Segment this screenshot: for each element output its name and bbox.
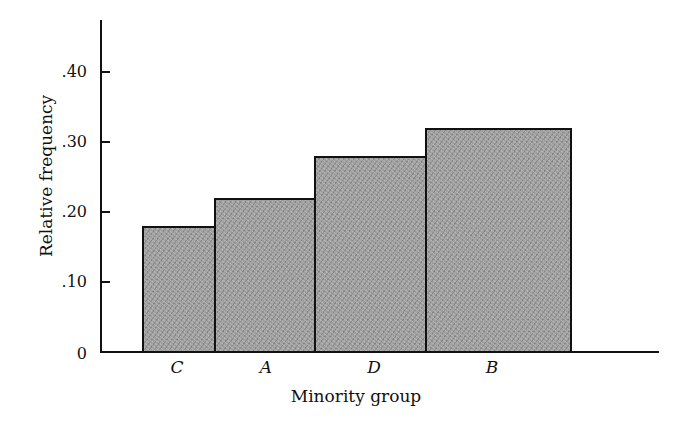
bar-d: [314, 156, 427, 353]
x-category-label: B: [472, 358, 512, 376]
y-tick-label: .40: [37, 64, 87, 80]
x-axis-title: Minority group: [286, 387, 426, 405]
y-axis-title: Relative frequency: [37, 117, 55, 257]
y-tick-label: .10: [37, 274, 87, 290]
y-tick: [101, 211, 110, 213]
y-tick: [101, 141, 110, 143]
bar-a: [214, 198, 316, 353]
y-axis-line: [100, 20, 102, 353]
y-tick-label: 0: [37, 346, 87, 362]
x-category-label: A: [246, 358, 286, 376]
y-tick: [101, 281, 110, 283]
bar-c: [142, 226, 216, 353]
y-tick: [101, 71, 110, 73]
bar-b: [425, 128, 572, 353]
x-category-label: C: [157, 358, 197, 376]
x-category-label: D: [354, 358, 394, 376]
